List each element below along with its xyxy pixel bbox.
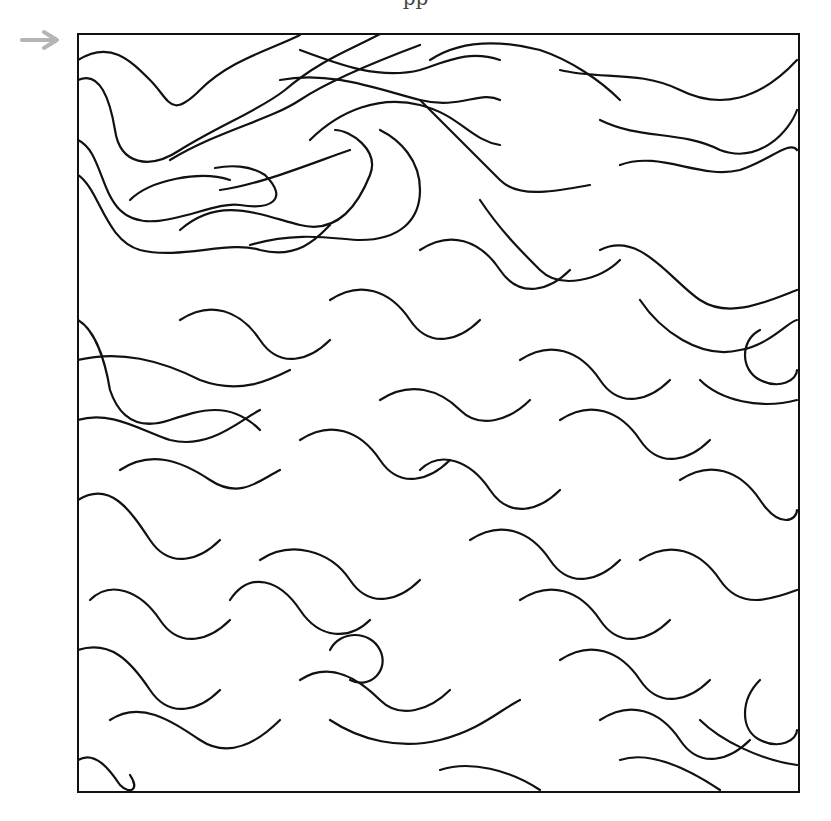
- maze-wall-line: [420, 240, 570, 289]
- maze-wall-line: [110, 712, 280, 749]
- maze-wall-line: [680, 470, 797, 520]
- maze-wall-line: [78, 494, 220, 559]
- maze-wall-line: [78, 320, 260, 430]
- maze-wall-line: [640, 550, 797, 600]
- maze-wall-line: [78, 647, 220, 709]
- maze-wall-line: [78, 410, 260, 442]
- maze-wall-line: [220, 150, 350, 190]
- maze-wall-line: [180, 310, 330, 359]
- maze-wall-line: [620, 147, 797, 172]
- maze-wall-line: [600, 110, 797, 154]
- maze-wall-line: [78, 35, 300, 105]
- maze-wall-line: [230, 582, 370, 634]
- maze-walls: [78, 34, 797, 790]
- maze-wall-line: [470, 530, 620, 579]
- maze-wall-line: [78, 175, 330, 253]
- maze-wall-line: [560, 650, 710, 699]
- maze-wall-line: [180, 130, 372, 230]
- maze-wall-line: [330, 635, 383, 683]
- maze-wall-line: [380, 389, 530, 421]
- maze-wall-line: [130, 176, 230, 200]
- maze-wall-line: [520, 350, 670, 399]
- maze-wall-line: [560, 410, 710, 459]
- maze-wall-line: [620, 757, 720, 790]
- maze-wall-line: [78, 757, 134, 790]
- maze-border: [78, 34, 799, 792]
- maze-wall-line: [745, 680, 797, 744]
- maze-wall-line: [310, 102, 500, 145]
- maze-wall-line: [78, 34, 380, 162]
- maze-wall-line: [280, 77, 500, 103]
- maze-wall-line: [440, 766, 540, 790]
- maze-wall-line: [600, 710, 750, 759]
- maze-wall-line: [520, 590, 670, 639]
- maze-wall-line: [120, 459, 280, 488]
- maze-wall-line: [330, 290, 480, 339]
- maze-wall-line: [300, 430, 450, 479]
- maze-wall-line: [430, 43, 620, 100]
- maze-wall-line: [480, 200, 620, 281]
- maze-wall-line: [90, 590, 230, 639]
- maze-illustration: [0, 0, 831, 821]
- maze-wall-line: [600, 245, 797, 308]
- maze-wall-line: [78, 356, 290, 386]
